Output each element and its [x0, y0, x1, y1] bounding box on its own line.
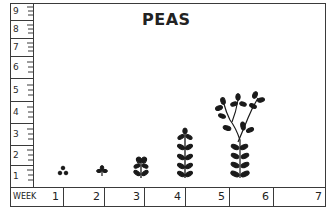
sprout-icon — [97, 166, 108, 176]
seed-icon — [58, 166, 68, 175]
seedling-icon — [133, 156, 149, 178]
mature-plant-icon — [215, 91, 265, 178]
young-plant-icon — [177, 128, 194, 178]
plant-growth-drawings — [0, 0, 329, 211]
